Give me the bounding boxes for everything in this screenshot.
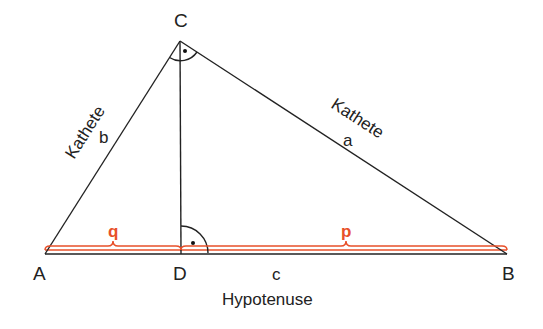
- vertex-label-a: A: [33, 263, 46, 284]
- right-angle-arc-d: [181, 226, 208, 253]
- altitude-line: [180, 41, 181, 254]
- diagram-svg: C A D B c Hypotenuse b Kathete a Kathete…: [0, 0, 543, 329]
- vertex-label-d: D: [173, 263, 187, 284]
- side-label-b: b: [99, 128, 108, 147]
- right-triangle-diagram: C A D B c Hypotenuse b Kathete a Kathete…: [0, 0, 543, 329]
- brace-q: [45, 241, 181, 250]
- right-angle-dot-c: [183, 49, 187, 53]
- leg-label-a: Kathete: [328, 94, 388, 142]
- vertex-label-b: B: [502, 263, 515, 284]
- side-label-a: a: [343, 131, 353, 150]
- hypotenuse-label: Hypotenuse: [222, 290, 313, 309]
- segment-label-p: p: [341, 222, 351, 241]
- side-label-c: c: [272, 265, 281, 284]
- right-angle-arc-c: [170, 52, 198, 61]
- segment-label-q: q: [108, 222, 118, 241]
- vertex-label-c: C: [174, 10, 188, 31]
- brace-p: [181, 241, 507, 250]
- right-angle-dot-d: [191, 241, 195, 245]
